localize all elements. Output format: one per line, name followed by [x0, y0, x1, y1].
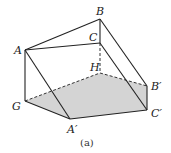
label-cprime: C′ — [151, 107, 162, 120]
label-h: H — [89, 61, 100, 74]
edge-a-c — [25, 43, 100, 50]
label-bprime: B′ — [150, 80, 162, 93]
label-b: B — [95, 5, 104, 18]
geometry-figure: B C A H B′ C′ G A′ (a) — [0, 0, 171, 153]
figure-caption: (a) — [80, 137, 94, 148]
label-aprime: A′ — [66, 123, 78, 136]
label-a: A — [13, 44, 22, 57]
label-c: C — [89, 31, 98, 44]
label-g: G — [12, 100, 21, 113]
